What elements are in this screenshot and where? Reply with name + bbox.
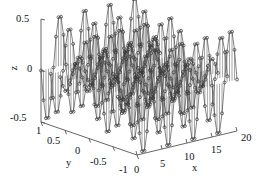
z-tick-1: 0 xyxy=(27,64,32,75)
z-tick-0: 0.5 xyxy=(16,14,29,25)
y-tick-0: 1 xyxy=(36,126,41,137)
plot-canvas xyxy=(0,0,271,189)
y-tick-1: 0.5 xyxy=(47,136,60,147)
figure-3d-stem-plot: 0.5 0 -0.5 z 1 0.5 0 -0.5 -1 y 0 5 10 15… xyxy=(0,0,271,189)
x-tick-3: 15 xyxy=(211,145,222,156)
x-tick-1: 5 xyxy=(160,159,165,170)
y-tick-4: -1 xyxy=(119,165,128,176)
x-tick-0: 0 xyxy=(134,165,139,176)
x-axis-label: x xyxy=(192,163,197,174)
x-tick-4: 20 xyxy=(241,133,252,144)
y-tick-3: -0.5 xyxy=(90,157,107,168)
y-axis-label: y xyxy=(66,158,71,169)
z-tick-2: -0.5 xyxy=(10,113,27,124)
x-tick-2: 10 xyxy=(184,152,195,163)
z-axis-label: z xyxy=(9,66,20,71)
y-tick-2: 0 xyxy=(75,146,80,157)
